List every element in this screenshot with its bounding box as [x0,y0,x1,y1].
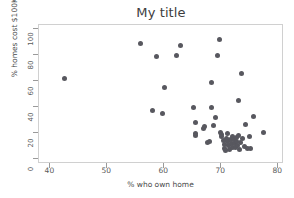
data-point [237,147,242,152]
data-point [62,76,67,81]
y-axis-tick-label: 80 [27,53,35,77]
data-point [209,105,214,110]
data-point [261,130,266,135]
data-point [213,115,218,120]
data-point [193,133,198,138]
x-axis-title: % who own home [38,180,283,189]
data-point [243,122,248,127]
data-point [248,146,253,151]
data-point [236,98,241,103]
plot-area [38,24,283,163]
data-point [178,43,183,48]
data-point [211,123,216,128]
data-point [162,85,167,90]
data-point [239,71,244,76]
y-axis-tick-label: 0 [27,157,35,181]
data-point [207,139,212,144]
y-axis-tick-label: 100 [27,27,35,51]
data-point [174,53,179,58]
y-axis-tick-label: 40 [27,105,35,129]
scatter-chart-figure: My title % homes cost $100K+ % who own h… [0,0,294,198]
x-axis-tick-label: 70 [208,166,232,175]
y-axis-title: % homes cost $100K+ [10,0,19,101]
x-axis-tick-label: 80 [265,166,289,175]
data-point [138,41,143,46]
data-point [193,120,198,125]
data-point-layer [39,25,282,162]
data-point [247,134,252,139]
chart-title: My title [38,5,284,20]
data-point [251,114,256,119]
data-point [217,37,222,42]
y-axis-tick-label: 20 [27,131,35,155]
x-axis-tick-label: 50 [94,166,118,175]
data-point [215,53,220,58]
data-point [150,108,155,113]
data-point [154,54,159,59]
data-point [202,124,207,129]
x-axis-tick-label: 60 [151,166,175,175]
y-axis-tick-label: 60 [27,79,35,103]
data-point [160,111,165,116]
data-point [240,136,245,141]
data-point [191,105,196,110]
data-point [209,80,214,85]
x-axis-tick-label: 40 [37,166,61,175]
